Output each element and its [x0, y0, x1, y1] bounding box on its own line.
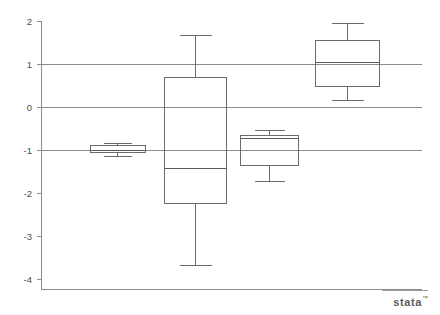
box-group-1 — [91, 144, 146, 157]
box-group-4 — [316, 24, 380, 101]
y-tick-label-minus-3: -3 — [24, 231, 32, 242]
y-tick-label-1: 1 — [27, 59, 32, 70]
box-iqr-4 — [316, 41, 380, 87]
boxplot-chart: 2 1 0 -1 -2 -3 -4 — [0, 0, 440, 315]
plot-area: 2 1 0 -1 -2 -3 -4 — [0, 0, 440, 315]
stata-logo: stata™ — [382, 290, 428, 309]
box-iqr-3 — [241, 136, 299, 166]
stata-logo-text: stata — [393, 296, 422, 308]
box-iqr-1 — [91, 146, 146, 153]
box-iqr-2 — [165, 78, 227, 204]
trademark-icon: ™ — [422, 295, 428, 301]
y-tick-label-minus-1: -1 — [24, 145, 32, 156]
y-tick-label-minus-4: -4 — [24, 274, 32, 285]
box-group-3 — [241, 131, 299, 182]
y-tick-label-0: 0 — [27, 102, 32, 113]
y-tick-label-minus-2: -2 — [24, 188, 32, 199]
box-group-2 — [165, 36, 227, 266]
y-tick-label-2: 2 — [27, 16, 32, 27]
logo-divider — [382, 290, 428, 291]
